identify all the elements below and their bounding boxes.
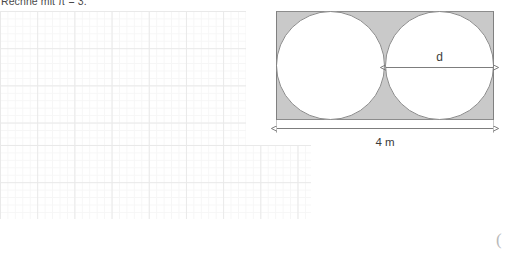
width-label: 4 m [375, 136, 394, 148]
answer-grid-lower [0, 145, 311, 219]
diameter-label: d [436, 50, 443, 64]
answer-grid-upper [0, 11, 246, 145]
geometry-figure: d 4 m [265, 0, 506, 152]
instruction-text: Rechne mit π = 3. [1, 0, 87, 7]
right-circle-shape [386, 12, 494, 120]
trailing-parenthesis: ( [496, 231, 502, 248]
figure-svg: d 4 m [265, 0, 506, 152]
left-circle-shape [277, 12, 385, 120]
